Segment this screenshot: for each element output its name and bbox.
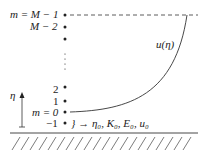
ground-hatching [12, 137, 191, 150]
level-label-2: 2 [53, 84, 59, 95]
velocity-profile-curve [70, 15, 187, 112]
level-label-minus1: −1 [46, 118, 58, 129]
arrowhead-icon [20, 92, 25, 98]
eta-axis-label: η [10, 90, 15, 101]
boundary-annotation: } → η₀, K₀, E₀, u₀ [71, 118, 149, 129]
grid-points [64, 14, 67, 125]
level-label-top: m = M − 1 [10, 9, 58, 20]
curve-label: u(η) [156, 39, 174, 50]
level-label-m2: M − 2 [30, 21, 58, 32]
